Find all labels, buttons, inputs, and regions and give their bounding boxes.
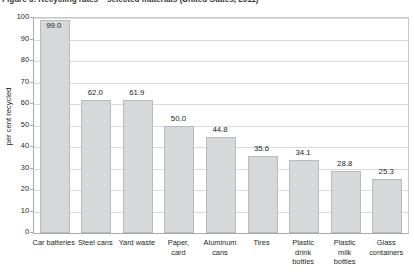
bar[interactable] <box>248 156 278 233</box>
x-tick-label-line: bottles <box>320 257 370 267</box>
y-tick-label: 50 <box>5 121 29 128</box>
x-tick-label: Glasscontainers <box>361 238 411 257</box>
x-tick-label-line: cans <box>195 248 245 258</box>
y-tick-label: 40 <box>5 142 29 149</box>
figure-title: Figure 6: Recycling rates – selected mat… <box>2 0 412 4</box>
gridline <box>34 18 408 19</box>
y-tick-label: 20 <box>5 185 29 192</box>
bar[interactable] <box>123 100 153 233</box>
y-tick-label: 60 <box>5 99 29 106</box>
y-tick-label: 30 <box>5 164 29 171</box>
bar[interactable] <box>40 20 70 233</box>
y-tick-label: 0 <box>5 228 29 235</box>
bar[interactable] <box>372 179 402 233</box>
bar-value-label: 61.9 <box>116 89 158 97</box>
bar-value-label: 28.8 <box>324 160 366 168</box>
bar[interactable] <box>164 126 194 234</box>
y-tick-label: 80 <box>5 56 29 63</box>
bar[interactable] <box>331 171 361 233</box>
gridline <box>34 83 408 84</box>
x-tick-label-line: Glass <box>361 238 411 248</box>
gridline <box>34 40 408 41</box>
y-tick-label: 70 <box>5 78 29 85</box>
y-axis-title: per cent recycled <box>4 82 13 152</box>
bar[interactable] <box>289 160 319 233</box>
bar-value-label: 99.0 <box>33 22 75 30</box>
y-tick-label: 90 <box>5 35 29 42</box>
bar-value-label: 44.8 <box>199 126 241 134</box>
bar-value-label: 50.0 <box>158 115 200 123</box>
bar-value-label: 62.0 <box>75 89 117 97</box>
bar[interactable] <box>81 100 111 233</box>
bar-value-label: 34.1 <box>282 149 324 157</box>
bar-value-label: 25.3 <box>365 168 407 176</box>
x-tick-label-line: containers <box>361 248 411 258</box>
bar-value-label: 35.6 <box>241 145 283 153</box>
gridline <box>34 61 408 62</box>
bar[interactable] <box>206 137 236 233</box>
y-tick-label: 100 <box>5 13 29 20</box>
y-tick-label: 10 <box>5 207 29 214</box>
figure-recycling-rates: Figure 6: Recycling rates – selected mat… <box>0 0 414 277</box>
